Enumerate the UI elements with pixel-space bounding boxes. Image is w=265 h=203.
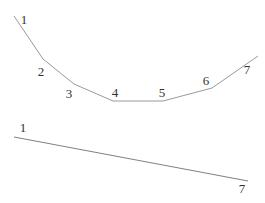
figure: 123456717: [0, 0, 265, 203]
u-shaped-curve-point-label-3: 3: [66, 86, 73, 101]
straight-declining-line-point-label-7: 7: [239, 181, 246, 196]
u-shaped-curve-point-label-1: 1: [21, 12, 28, 27]
u-shaped-curve-point-label-6: 6: [203, 73, 210, 88]
u-shaped-curve-path: [14, 16, 258, 101]
u-shaped-curve-point-label-2: 2: [38, 64, 45, 79]
straight-declining-line-path: [14, 137, 248, 181]
u-shaped-curve-point-label-7: 7: [244, 62, 251, 77]
u-shaped-curve-point-label-5: 5: [159, 85, 166, 100]
u-shaped-curve-point-label-4: 4: [112, 85, 119, 100]
line-chart: 123456717: [0, 0, 265, 203]
straight-declining-line-point-label-1: 1: [20, 120, 27, 135]
